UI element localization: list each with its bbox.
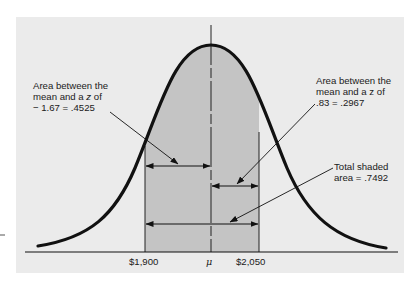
left-area-annotation: Area between the mean and a z of − 1.67 … (33, 80, 108, 113)
right-area-annotation: Area between the mean and a z of .83 = .… (316, 75, 391, 108)
tick-label-1900: $1,900 (129, 256, 158, 267)
tick-label-mean: μ (206, 256, 212, 267)
right-annotation-line1: Area between the (316, 75, 391, 86)
left-annotation-line1: Area between the (33, 80, 108, 91)
total-area-annotation: Total shaded area = .7492 (334, 161, 388, 183)
left-annotation-line2: mean and a z of (33, 91, 108, 102)
left-annotation-line3: − 1.67 = .4525 (33, 102, 108, 113)
normal-curve-figure (0, 0, 419, 285)
left-annotation-text-end: of (91, 91, 102, 102)
right-annotation-line2: mean and a z of (316, 86, 391, 97)
left-annotation-text: mean and a (33, 91, 86, 102)
right-annotation-line3: .83 = .2967 (316, 97, 391, 108)
total-annotation-line2: area = .7492 (334, 172, 388, 183)
total-annotation-line1: Total shaded (334, 161, 388, 172)
tick-label-2050: $2,050 (236, 256, 265, 267)
